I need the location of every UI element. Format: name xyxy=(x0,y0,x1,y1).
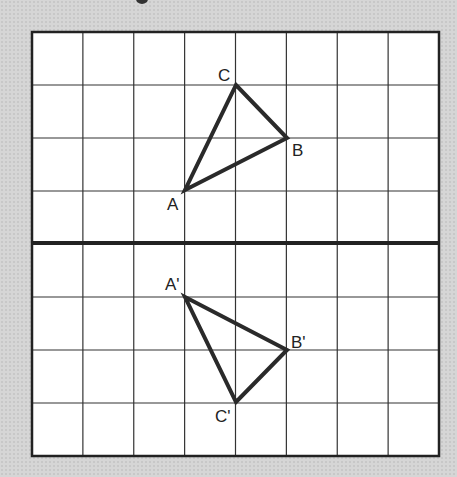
coordinate-grid-diagram: C B A A' B' C' xyxy=(0,0,457,477)
vertex-label-a: A xyxy=(167,195,179,214)
vertex-label-c: C xyxy=(218,66,230,85)
vertex-label-c-prime: C' xyxy=(215,407,231,426)
vertex-label-b-prime: B' xyxy=(291,333,306,352)
vertex-label-a-prime: A' xyxy=(165,275,180,294)
vertex-label-b: B xyxy=(292,141,303,160)
